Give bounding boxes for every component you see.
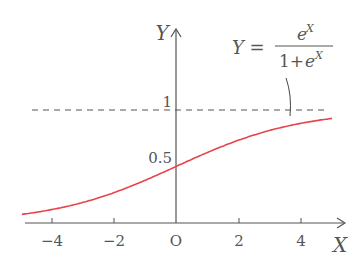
x-tick-label: −4 bbox=[41, 232, 63, 250]
y-axis-label: Y bbox=[155, 21, 170, 45]
formula-denominator: 1+ e X bbox=[279, 49, 324, 71]
svg-text:X: X bbox=[305, 22, 315, 35]
formula-numerator: e X bbox=[297, 22, 315, 44]
svg-text:X: X bbox=[314, 49, 324, 62]
origin-label: O bbox=[170, 232, 182, 250]
svg-text:e: e bbox=[305, 51, 315, 71]
x-tick-label: −2 bbox=[103, 232, 125, 250]
logistic-curve bbox=[22, 118, 332, 214]
x-tick-label: 2 bbox=[234, 232, 244, 250]
formula-lhs: Y = bbox=[232, 37, 265, 58]
x-axis-label: X bbox=[331, 233, 348, 257]
x-tick-label: 4 bbox=[296, 232, 306, 250]
y-tick-label: 0.5 bbox=[148, 149, 172, 167]
y-tick-label: 1 bbox=[162, 93, 172, 111]
logistic-chart: −4 −2 O 2 4 0.5 1 X Y Y = e X 1+ e X bbox=[0, 0, 364, 276]
svg-text:1+: 1+ bbox=[279, 51, 304, 71]
